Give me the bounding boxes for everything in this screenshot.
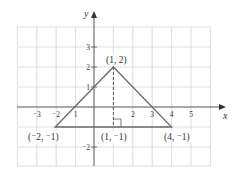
tick-y-3: 3 xyxy=(86,43,90,52)
tick-y-2: 2 xyxy=(86,63,90,72)
tick-x-minus3: ⁻3 xyxy=(33,110,41,119)
x-axis-label: x xyxy=(222,110,228,121)
coordinate-plane: x y ⁻3 ⁻2 1 2 3 4 5 3 2 1 ⁻2 (1, 2) (⁻2,… xyxy=(0,0,239,169)
tick-y-1: 1 xyxy=(86,83,90,92)
axes xyxy=(17,17,221,166)
right-vertex-label: (4, ⁻1) xyxy=(164,132,190,143)
tick-y-minus2: ⁻2 xyxy=(82,143,90,152)
grid xyxy=(17,27,210,166)
tick-x-3: 3 xyxy=(150,110,154,119)
foot-label: (1, ⁻1) xyxy=(101,132,127,143)
apex-label: (1, 2) xyxy=(106,55,127,66)
y-axis-label: y xyxy=(83,8,89,19)
tick-x-4: 4 xyxy=(170,110,174,119)
tick-x-minus2: ⁻2 xyxy=(52,110,60,119)
right-angle-marker xyxy=(113,119,121,127)
tick-x-5: 5 xyxy=(189,110,193,119)
left-vertex-label: (⁻2, ⁻1) xyxy=(28,132,59,143)
y-axis-arrow-icon xyxy=(91,11,97,18)
tick-x-2: 2 xyxy=(131,110,135,119)
tick-x-1: 1 xyxy=(74,110,78,119)
